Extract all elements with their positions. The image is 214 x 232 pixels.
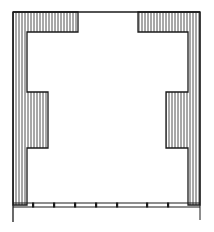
right-wall-hatched: [138, 12, 200, 205]
bottom-window-strip: [13, 203, 200, 208]
left-wall-hatched: [13, 12, 78, 205]
floor-plan: [0, 0, 214, 232]
